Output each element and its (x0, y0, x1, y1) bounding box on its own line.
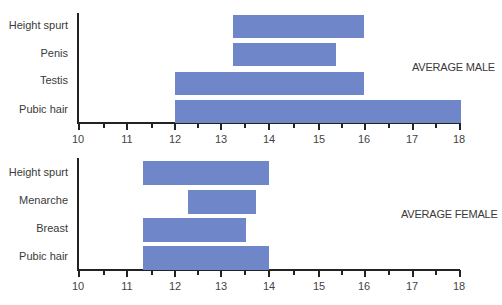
x-tick (220, 270, 222, 277)
x-minor-tick (244, 270, 246, 275)
x-minor-tick (341, 270, 343, 275)
x-tick-label: 16 (358, 280, 370, 292)
female-bar-breast (143, 218, 246, 242)
female-chart: Height spurt Menarche Breast Pubic hair … (0, 0, 502, 305)
female-row-label: Breast (0, 222, 68, 234)
x-tick-label: 17 (406, 280, 418, 292)
x-tick-label: 18 (453, 280, 465, 292)
x-tick-label: 11 (121, 280, 132, 292)
female-bar-pubic-hair (143, 246, 269, 270)
x-minor-tick (388, 270, 390, 275)
female-bar-height-spurt (143, 161, 269, 185)
x-tick-label: 14 (263, 280, 275, 292)
x-tick-label: 13 (215, 280, 227, 292)
x-tick (459, 270, 461, 277)
x-minor-tick (293, 270, 295, 275)
x-minor-tick (435, 270, 437, 275)
female-row-label: Pubic hair (0, 250, 68, 262)
female-bar-menarche (188, 190, 256, 214)
x-tick (412, 270, 414, 277)
female-row-label: Menarche (0, 194, 68, 206)
x-minor-tick (197, 270, 199, 275)
x-tick (364, 270, 366, 277)
x-minor-tick (151, 270, 153, 275)
x-tick (268, 270, 270, 277)
x-minor-tick (103, 270, 105, 275)
x-tick-label: 15 (313, 280, 325, 292)
x-tick (318, 270, 320, 277)
x-tick (126, 270, 128, 277)
female-y-axis (77, 158, 79, 271)
x-tick (78, 270, 80, 277)
x-tick-label: 10 (72, 280, 84, 292)
female-row-label: Height spurt (0, 166, 68, 178)
female-group-title: AVERAGE FEMALE (401, 208, 498, 220)
x-tick (174, 270, 176, 277)
x-tick-label: 12 (169, 280, 181, 292)
